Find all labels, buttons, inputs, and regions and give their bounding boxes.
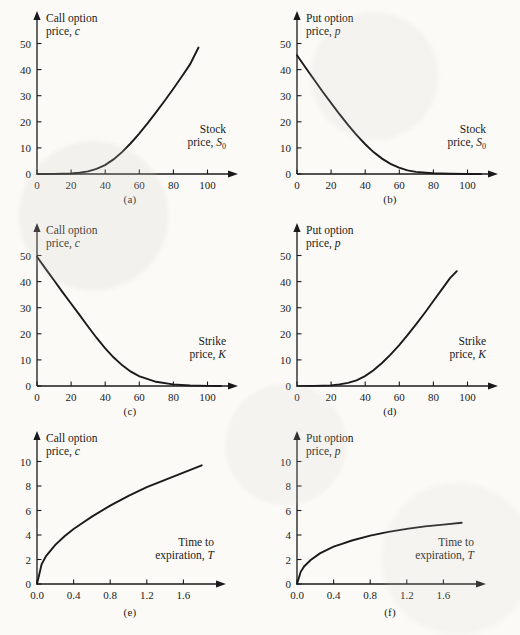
svg-text:40: 40 xyxy=(20,276,32,288)
svg-text:40: 40 xyxy=(20,64,32,76)
svg-text:8: 8 xyxy=(26,480,32,492)
ticks-f xyxy=(297,462,443,585)
svg-text:0.0: 0.0 xyxy=(290,589,304,601)
svg-text:60: 60 xyxy=(394,179,406,191)
curve-e xyxy=(37,465,202,584)
tick-labels-b: 020 4060 80100 010 2030 4050 xyxy=(280,38,476,192)
axis-title-x-d: Strike price, K xyxy=(450,335,488,361)
x-axis-arrow xyxy=(228,382,238,389)
svg-text:price, K: price, K xyxy=(450,348,488,361)
chart-svg-a: 020 4060 80100 010 2030 4050 Call option… xyxy=(0,0,260,212)
svg-text:6: 6 xyxy=(26,505,32,517)
axis-title-x-b: Stock price, S0 xyxy=(448,123,487,151)
chart-panel-e: 0.00.4 0.81.2 1.6 02 46 810 Call option … xyxy=(0,424,260,635)
svg-text:50: 50 xyxy=(20,250,32,262)
svg-text:Time to: Time to xyxy=(438,536,474,548)
svg-text:0.0: 0.0 xyxy=(30,589,44,601)
svg-text:50: 50 xyxy=(280,250,292,262)
y-axis-arrow xyxy=(293,431,300,440)
svg-text:0.8: 0.8 xyxy=(103,589,117,601)
svg-text:0: 0 xyxy=(286,578,292,590)
x-axis-arrow xyxy=(488,382,498,389)
x-axis-arrow xyxy=(488,170,498,177)
y-axis-arrow xyxy=(33,431,40,440)
svg-text:Time to: Time to xyxy=(178,536,214,548)
svg-text:100: 100 xyxy=(199,391,216,403)
svg-text:40: 40 xyxy=(280,276,292,288)
tick-labels-d: 020 4060 80100 010 2030 4050 xyxy=(280,250,476,404)
svg-text:50: 50 xyxy=(280,38,292,50)
figure-panel-grid: 020 4060 80100 010 2030 4050 Call option… xyxy=(0,0,520,635)
ticks-a xyxy=(37,44,208,175)
panel-caption-f: (f) xyxy=(260,606,520,618)
curve-c xyxy=(37,257,221,386)
svg-text:1.6: 1.6 xyxy=(177,589,191,601)
svg-text:Stock: Stock xyxy=(200,123,226,135)
svg-text:40: 40 xyxy=(100,391,112,403)
svg-text:60: 60 xyxy=(134,179,146,191)
chart-panel-b: 020 4060 80100 010 2030 4050 Put option … xyxy=(260,0,520,212)
svg-text:10: 10 xyxy=(20,354,32,366)
svg-text:100: 100 xyxy=(199,179,216,191)
panel-caption-b: (b) xyxy=(260,193,520,205)
svg-text:price, c: price, c xyxy=(46,25,80,38)
y-axis-arrow xyxy=(33,11,40,20)
svg-text:10: 10 xyxy=(280,354,292,366)
curve-a xyxy=(37,48,199,175)
svg-text:Call option: Call option xyxy=(46,224,98,237)
svg-text:0.4: 0.4 xyxy=(327,589,341,601)
svg-text:40: 40 xyxy=(360,391,372,403)
svg-text:30: 30 xyxy=(20,302,32,314)
chart-svg-d: 020 4060 80100 010 2030 4050 Put option … xyxy=(260,212,520,424)
svg-text:10: 10 xyxy=(20,142,32,154)
chart-panel-f: 0.00.4 0.81.2 1.6 02 46 810 Put option p… xyxy=(260,424,520,635)
axis-title-x-a: Stock price, S0 xyxy=(188,123,227,151)
svg-text:40: 40 xyxy=(360,179,372,191)
svg-text:100: 100 xyxy=(459,179,476,191)
svg-text:30: 30 xyxy=(20,90,32,102)
ticks-b xyxy=(297,44,468,175)
panel-caption-d: (d) xyxy=(260,405,520,417)
svg-text:0: 0 xyxy=(34,391,40,403)
axis-title-y-e: Call option price, c xyxy=(46,432,98,458)
svg-text:0.4: 0.4 xyxy=(67,589,81,601)
svg-text:0: 0 xyxy=(286,380,292,392)
x-axis-arrow xyxy=(476,580,486,587)
svg-text:0: 0 xyxy=(26,168,32,180)
svg-text:0: 0 xyxy=(26,380,32,392)
svg-text:10: 10 xyxy=(280,456,292,468)
tick-labels-e: 0.00.4 0.81.2 1.6 02 46 810 xyxy=(20,456,191,602)
svg-text:30: 30 xyxy=(280,302,292,314)
svg-text:0: 0 xyxy=(294,391,300,403)
curve-b xyxy=(297,55,481,174)
ticks-e xyxy=(37,462,183,585)
svg-text:10: 10 xyxy=(280,142,292,154)
panel-caption-c: (c) xyxy=(0,405,260,417)
x-axis-arrow xyxy=(216,580,226,587)
chart-panel-d: 020 4060 80100 010 2030 4050 Put option … xyxy=(260,212,520,424)
svg-text:40: 40 xyxy=(280,64,292,76)
svg-text:80: 80 xyxy=(168,391,180,403)
y-axis-arrow xyxy=(293,223,300,232)
curve-d xyxy=(297,271,457,386)
svg-text:0: 0 xyxy=(34,179,40,191)
chart-svg-e: 0.00.4 0.81.2 1.6 02 46 810 Call option … xyxy=(0,424,260,635)
y-axis-arrow xyxy=(33,223,40,232)
svg-text:20: 20 xyxy=(280,116,292,128)
ticks-d xyxy=(297,256,468,387)
svg-text:price, p: price, p xyxy=(306,445,341,458)
svg-text:80: 80 xyxy=(428,179,440,191)
svg-text:20: 20 xyxy=(20,328,32,340)
svg-text:4: 4 xyxy=(26,529,32,541)
svg-text:price, c: price, c xyxy=(46,445,80,458)
chart-panel-c: 020 4060 80100 010 2030 4050 Call option… xyxy=(0,212,260,424)
svg-text:Strike: Strike xyxy=(459,335,486,347)
chart-svg-c: 020 4060 80100 010 2030 4050 Call option… xyxy=(0,212,260,424)
svg-text:1.2: 1.2 xyxy=(140,589,154,601)
svg-text:20: 20 xyxy=(66,391,78,403)
y-axis-arrow xyxy=(293,11,300,20)
svg-text:Call option: Call option xyxy=(46,12,98,25)
svg-text:price, S0: price, S0 xyxy=(448,136,486,151)
svg-text:Strike: Strike xyxy=(199,335,226,347)
svg-text:Put option: Put option xyxy=(306,12,354,25)
